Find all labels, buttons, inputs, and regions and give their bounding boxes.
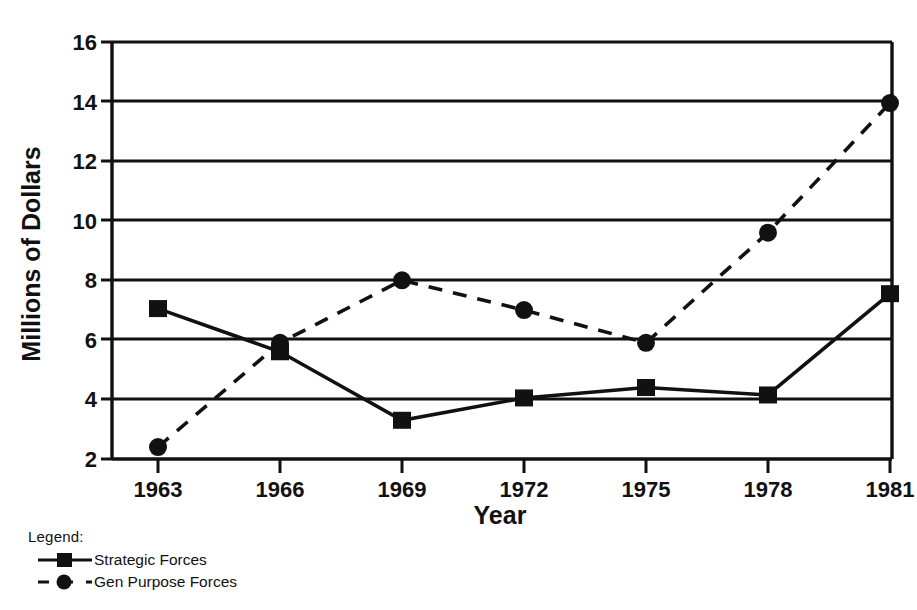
data-point-marker [759, 386, 777, 403]
chart-page: Millions of Dollars 16 14 12 10 8 6 4 2 [0, 0, 917, 610]
legend: Legend: Strategic Forces Gen Purpose For… [28, 528, 448, 593]
x-tick-label: 1966 [256, 477, 305, 502]
y-tick-label: 2 [85, 447, 97, 472]
data-point-marker [637, 379, 655, 396]
line-chart: Millions of Dollars 16 14 12 10 8 6 4 2 [0, 0, 917, 530]
legend-title: Legend: [28, 528, 448, 545]
data-point-marker [637, 334, 655, 352]
y-axis-title: Millions of Dollars [17, 146, 45, 361]
y-tick-label: 6 [85, 328, 97, 353]
y-tick-label: 12 [73, 149, 97, 174]
legend-label: Gen Purpose Forces [94, 573, 237, 591]
legend-sample-solid-square-icon [36, 550, 94, 570]
data-point-marker [393, 271, 411, 289]
y-tick-label: 4 [85, 387, 98, 412]
data-point-marker [515, 301, 533, 319]
data-point-marker [149, 438, 167, 456]
x-tick-label: 1975 [622, 477, 671, 502]
data-point-marker [515, 389, 533, 406]
y-tick-label: 10 [73, 209, 97, 234]
legend-item-strategic-forces[interactable]: Strategic Forces [36, 549, 448, 571]
x-tick-label: 1972 [500, 477, 549, 502]
legend-item-gen-purpose-forces[interactable]: Gen Purpose Forces [36, 571, 448, 593]
data-point-marker [881, 285, 899, 302]
x-tick-label: 1981 [866, 477, 915, 502]
x-axis-ticks [158, 459, 890, 473]
y-tick-label: 8 [85, 268, 97, 293]
x-tick-labels: 1963 1966 1969 1972 1975 1978 1981 [134, 477, 915, 502]
y-tick-label: 14 [73, 90, 98, 115]
x-tick-label: 1978 [744, 477, 793, 502]
x-tick-label: 1963 [134, 477, 183, 502]
legend-sample-dashed-circle-icon [36, 572, 94, 592]
legend-label: Strategic Forces [94, 551, 207, 569]
data-point-marker [881, 94, 899, 112]
data-series-layer [149, 94, 899, 456]
chart-canvas: Millions of Dollars 16 14 12 10 8 6 4 2 [0, 0, 917, 530]
data-point-marker [759, 224, 777, 242]
data-point-marker [149, 300, 167, 317]
x-tick-label: 1969 [378, 477, 427, 502]
data-point-marker [271, 334, 289, 352]
y-tick-labels: 16 14 12 10 8 6 4 2 [73, 30, 98, 472]
y-tick-label: 16 [73, 30, 97, 55]
gridlines [112, 42, 892, 399]
data-point-marker [393, 412, 411, 429]
x-axis-title: Year [474, 501, 527, 529]
